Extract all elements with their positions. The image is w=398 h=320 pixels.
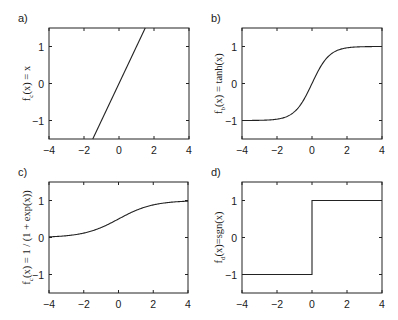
function-curve [93, 28, 146, 139]
panel-label: a) [18, 12, 28, 24]
x-tick-label: 2 [344, 298, 350, 310]
x-tick-label: −4 [43, 298, 55, 310]
y-tick-label: 0 [231, 232, 237, 244]
x-tick-label: 2 [150, 298, 156, 310]
y-axis-label: fb(x) = tanh(x) [213, 53, 227, 114]
x-tick-label: −2 [271, 144, 283, 156]
x-tick-label: 2 [151, 144, 157, 156]
x-tick-label: 4 [379, 144, 385, 156]
function-curve [242, 47, 382, 121]
y-tick-label: 1 [231, 195, 237, 207]
x-tick-label: 4 [379, 298, 385, 310]
axes-box [49, 182, 188, 293]
x-tick-label: 4 [185, 298, 191, 310]
x-tick-label: −4 [236, 298, 248, 310]
figure: a)−4−2024−101fc(x) = xb)−4−2024−101fb(x)… [0, 0, 398, 320]
x-tick-label: 2 [344, 144, 350, 156]
y-tick-label: 0 [231, 78, 237, 90]
function-curve [242, 201, 382, 275]
subplot-b: b)−4−2024−101fb(x) = tanh(x) [211, 12, 385, 156]
y-axis-label: fc(x) = x [21, 65, 35, 101]
x-tick-label: −2 [271, 298, 283, 310]
x-tick-label: −2 [78, 144, 90, 156]
y-tick-label: 1 [38, 195, 44, 207]
panel-label: c) [18, 166, 27, 178]
x-tick-label: 4 [186, 144, 192, 156]
panel-label: d) [211, 166, 221, 178]
y-tick-label: 1 [231, 41, 237, 53]
x-tick-label: 0 [309, 144, 315, 156]
y-tick-label: 0 [38, 78, 44, 90]
subplot-d: d)−4−2024−101fd(x)=sgn(x) [211, 166, 385, 310]
x-tick-label: 0 [116, 144, 122, 156]
panel-label: b) [211, 12, 221, 24]
function-curve [49, 201, 188, 237]
y-tick-label: −1 [32, 115, 44, 127]
subplot-c: c)−4−2024−101fc(x) = 1 / (1 + exp(x)) [18, 166, 191, 310]
subplot-a: a)−4−2024−101fc(x) = x [18, 12, 192, 156]
y-tick-label: −1 [225, 269, 237, 281]
x-tick-label: 0 [116, 298, 122, 310]
x-tick-label: −2 [78, 298, 90, 310]
y-tick-label: −1 [225, 115, 237, 127]
x-tick-label: −4 [43, 144, 55, 156]
x-tick-label: 0 [309, 298, 315, 310]
y-tick-label: 1 [38, 41, 44, 53]
y-tick-label: 0 [38, 232, 44, 244]
x-tick-label: −4 [236, 144, 248, 156]
y-axis-label: fd(x)=sgn(x) [213, 211, 227, 263]
